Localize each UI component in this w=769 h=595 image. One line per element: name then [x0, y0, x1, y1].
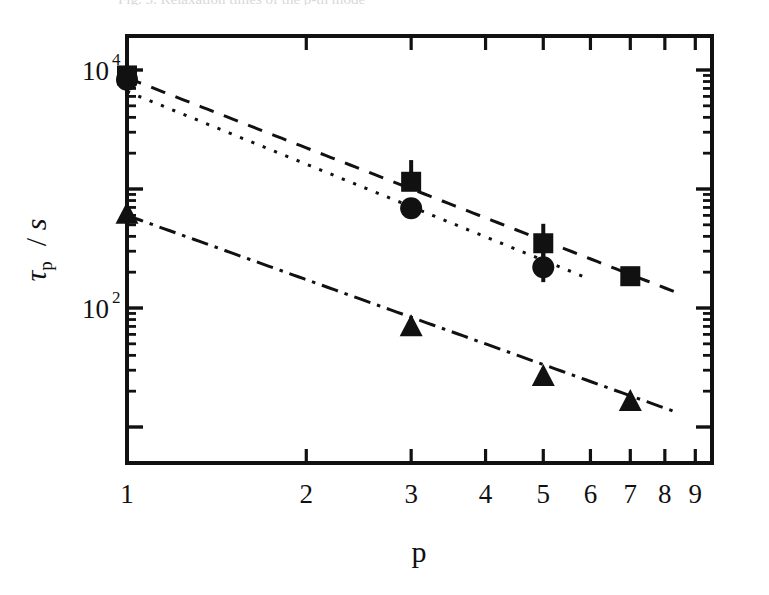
x-tick-label: 4 — [479, 479, 493, 509]
x-tick-label: 6 — [584, 479, 598, 509]
marker-filled-square-p7 — [620, 266, 640, 286]
x-tick-label: 9 — [689, 479, 703, 509]
marker-filled-triangle-up-p3 — [400, 314, 423, 336]
marker-filled-circle-p3 — [400, 197, 422, 219]
marker-filled-square-p3 — [401, 172, 421, 192]
marker-filled-circle-p1 — [116, 69, 138, 91]
fit-curves — [127, 78, 684, 413]
figure-container: Fig. 5. Relaxation times of the p-th mod… — [0, 0, 769, 595]
y-axis-title: τp / s — [19, 219, 56, 282]
svg-text:τp / s: τp / s — [19, 219, 56, 282]
error-bars — [127, 62, 543, 282]
y-tick-label-base: 10 — [82, 56, 109, 86]
axes-box — [127, 36, 712, 463]
plot-frame — [127, 36, 712, 463]
marker-filled-square-p5 — [533, 233, 553, 253]
fit-curve-triangles — [127, 215, 677, 412]
x-tick-label: 7 — [624, 479, 638, 509]
fit-curve-circles — [127, 91, 586, 277]
x-tick-label: 2 — [300, 479, 314, 509]
axis-ticks — [127, 36, 712, 463]
y-tick-label: 104 — [82, 50, 121, 86]
y-tick-label-base: 10 — [82, 294, 109, 324]
x-axis-title: p — [412, 535, 427, 568]
log-log-plot: 123456789104102 p τp / s — [0, 0, 769, 595]
y-tick-label: 102 — [82, 288, 121, 324]
marker-filled-triangle-up-p1 — [116, 202, 139, 224]
y-tick-label-exponent: 2 — [112, 288, 121, 307]
x-tick-label: 5 — [537, 479, 551, 509]
marker-filled-circle-p5 — [532, 256, 554, 278]
x-tick-label: 1 — [120, 479, 134, 509]
x-tick-label: 8 — [658, 479, 672, 509]
axis-tick-labels: 123456789104102 — [82, 50, 702, 509]
x-tick-label: 3 — [404, 479, 418, 509]
y-tick-label-exponent: 4 — [112, 50, 121, 69]
